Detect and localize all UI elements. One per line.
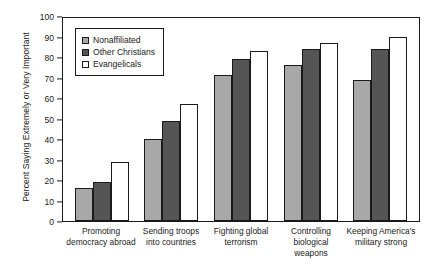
y-tick-label: 40: [14, 135, 54, 145]
bar: [162, 121, 180, 221]
y-tick-label: 80: [14, 53, 54, 63]
legend-swatch-icon: [82, 49, 89, 56]
x-tick-label: Keeping America's military strong: [346, 226, 416, 259]
bar: [284, 65, 302, 221]
legend-label: Nonaffiliated: [93, 34, 141, 46]
y-tick-label: 0: [14, 217, 54, 227]
x-tick-label: Promoting democracy abroad: [66, 226, 136, 259]
legend-swatch-icon: [82, 61, 89, 68]
y-axis-ticks: 0102030405060708090100: [0, 0, 62, 239]
bar: [93, 182, 111, 221]
bar-group: [206, 18, 276, 221]
bar: [353, 80, 371, 221]
bar-group: [276, 18, 346, 221]
y-tick-label: 30: [14, 156, 54, 166]
legend-item-other-christians: Other Christians: [82, 46, 155, 58]
legend: Nonaffiliated Other Christians Evangelic…: [75, 28, 164, 76]
x-tick-label: Fighting global terrorism: [206, 226, 276, 259]
y-tick-label: 100: [14, 12, 54, 22]
x-tick-label: Sending troops into countries: [136, 226, 206, 259]
legend-label: Other Christians: [93, 46, 155, 58]
y-tick-label: 20: [14, 176, 54, 186]
legend-swatch-icon: [82, 37, 89, 44]
x-axis-labels: Promoting democracy abroadSending troops…: [62, 226, 420, 259]
bar: [180, 104, 198, 221]
legend-item-nonaffiliated: Nonaffiliated: [82, 34, 155, 46]
y-tick-label: 60: [14, 94, 54, 104]
y-tick-label: 10: [14, 197, 54, 207]
bar: [250, 51, 268, 221]
bar: [214, 75, 232, 221]
y-tick-label: 70: [14, 74, 54, 84]
bar: [389, 37, 407, 222]
legend-label: Evangelicals: [93, 58, 141, 70]
y-tick-label: 50: [14, 115, 54, 125]
bar: [371, 49, 389, 221]
bar: [320, 43, 338, 221]
bar: [75, 188, 93, 221]
plot-area: Nonaffiliated Other Christians Evangelic…: [62, 17, 420, 222]
bar: [144, 139, 162, 221]
bar: [302, 49, 320, 221]
legend-item-evangelicals: Evangelicals: [82, 58, 155, 70]
x-tick-label: Controlling biological weapons: [276, 226, 346, 259]
bar-chart: Percent Saying Extremely or Very Importa…: [0, 0, 441, 280]
y-tick-label: 90: [14, 33, 54, 43]
bar: [232, 59, 250, 221]
bar-group: [345, 18, 415, 221]
bar: [111, 162, 129, 221]
